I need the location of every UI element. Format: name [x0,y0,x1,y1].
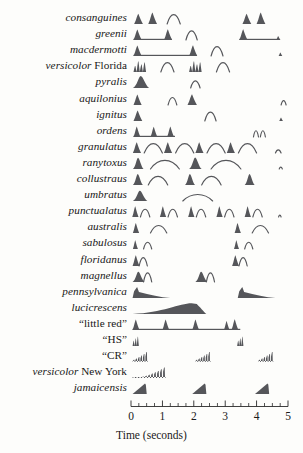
axis-tick-label: 0 [121,410,141,422]
flash-pattern-trace [127,378,303,397]
axis-tick-label: 4 [247,410,267,422]
species-label: jamaicensis [0,378,127,397]
axis-tick-label: 5 [278,410,298,422]
firefly-flash-pattern-figure: consanguinesgreeniimacdermottiversicolor… [0,0,303,453]
axis-tick-label: 1 [152,410,172,422]
axis-title: Time (seconds) [0,429,303,441]
axis-tick-label: 2 [184,410,204,422]
species-row: jamaicensis [0,378,303,397]
axis-tick-label: 3 [215,410,235,422]
